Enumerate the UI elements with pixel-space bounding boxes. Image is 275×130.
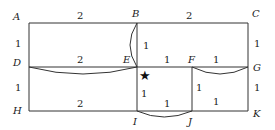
edge-label-EI: 1 xyxy=(141,88,147,99)
edge-label-EF: 1 xyxy=(164,54,170,65)
arc-I-J xyxy=(137,111,192,117)
point-label-F: F xyxy=(187,54,196,65)
arc-B-E xyxy=(130,23,137,67)
edge-label-HI: 2 xyxy=(77,98,83,109)
point-label-J: J xyxy=(186,116,193,127)
edge-label-DE: 2 xyxy=(77,54,83,65)
point-label-E: E xyxy=(122,54,131,65)
point-label-G: G xyxy=(253,62,261,73)
edge-label-IJ: 1 xyxy=(164,98,170,109)
point-label-C: C xyxy=(252,8,260,19)
point-label-K: K xyxy=(252,108,261,119)
edge-label-BE: 1 xyxy=(143,40,149,51)
edge-label-JK: 1 xyxy=(213,96,219,107)
route-diagram: A B C D E F G H I J K 2 2 1 1 2 1 1 1 1 … xyxy=(0,0,275,130)
edge-label-DH: 1 xyxy=(15,82,21,93)
edge-label-CG: 1 xyxy=(254,38,260,49)
point-label-I: I xyxy=(132,116,138,127)
arc-D-E xyxy=(29,67,137,74)
edge-label-FJ: 1 xyxy=(196,82,202,93)
edge-label-AD: 1 xyxy=(15,38,21,49)
point-label-A: A xyxy=(12,11,20,22)
star-icon: ★ xyxy=(139,68,151,83)
edge-label-AB: 2 xyxy=(77,10,83,21)
edge-label-GK: 1 xyxy=(254,82,260,93)
edge-label-BC: 2 xyxy=(186,10,192,21)
edge-labels: 2 2 1 1 2 1 1 1 1 1 2 1 1 1 1 xyxy=(15,10,260,109)
point-label-D: D xyxy=(12,57,21,68)
edge-label-FG: 1 xyxy=(213,54,219,65)
point-label-B: B xyxy=(131,8,139,19)
arc-F-G xyxy=(192,67,248,74)
point-label-H: H xyxy=(12,105,22,116)
